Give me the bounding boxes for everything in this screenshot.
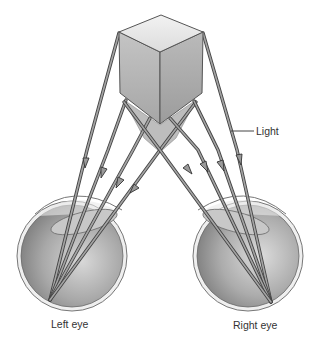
- binocular-vision-diagram: [0, 0, 317, 343]
- ray-arrowheads: [83, 154, 242, 193]
- left-eye-label: Left eye: [51, 318, 88, 330]
- light-label: Light: [256, 125, 279, 137]
- right-eye-label: Right eye: [233, 319, 277, 331]
